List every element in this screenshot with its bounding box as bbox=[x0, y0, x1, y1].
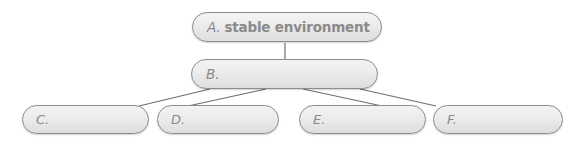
node-c[interactable]: C. bbox=[22, 105, 149, 134]
node-d[interactable]: D. bbox=[157, 105, 279, 134]
node-d-letter: D. bbox=[171, 112, 185, 127]
node-b-label: B. bbox=[206, 66, 220, 82]
node-b-letter: B. bbox=[206, 66, 220, 82]
node-e-letter: E. bbox=[313, 112, 325, 127]
edge-b-c bbox=[139, 89, 210, 106]
node-d-label: D. bbox=[171, 112, 185, 127]
node-c-letter: C. bbox=[36, 112, 49, 127]
edge-b-f bbox=[360, 89, 436, 106]
node-e[interactable]: E. bbox=[299, 105, 426, 134]
diagram-canvas: A. stable environment B. C. D. E. F. bbox=[0, 0, 575, 144]
node-a-label: A. stable environment bbox=[207, 19, 370, 35]
node-a-letter: A. bbox=[207, 19, 220, 35]
node-b[interactable]: B. bbox=[191, 59, 378, 89]
node-f[interactable]: F. bbox=[433, 105, 563, 134]
edge-b-d bbox=[188, 89, 266, 106]
node-f-letter: F. bbox=[447, 112, 457, 127]
node-f-label: F. bbox=[447, 112, 457, 127]
node-a-phrase: stable environment bbox=[224, 19, 369, 35]
node-c-label: C. bbox=[36, 112, 49, 127]
node-a-stable-environment[interactable]: A. stable environment bbox=[192, 12, 382, 42]
node-e-label: E. bbox=[313, 112, 325, 127]
edge-b-e bbox=[303, 89, 382, 106]
